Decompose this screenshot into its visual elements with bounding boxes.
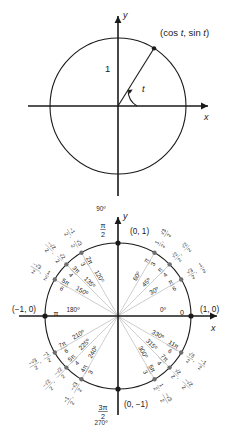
svg-text:2: 2 [54,258,60,264]
svg-text:2: 2 [181,384,187,390]
circle-point-120 [79,251,83,255]
radian-label-180: π [54,309,59,318]
circle-point-60 [152,251,156,255]
svg-text:2: 2 [201,267,207,274]
svg-text:3: 3 [149,260,157,267]
svg-text:6: 6 [63,346,70,354]
radian-label-120: 2π3 [78,255,95,270]
circle-point-315 [167,365,171,369]
svg-text:2: 2 [33,364,39,371]
svg-text:3π: 3π [99,403,108,412]
svg-text:2: 2 [60,373,66,379]
circle-point-270 [115,386,120,391]
degree-label-180: 180º [67,306,81,313]
svg-text:6: 6 [59,284,66,292]
svg-text:2: 2 [63,231,70,237]
circle-point-30 [179,277,183,281]
radian-label-240: 4π3 [78,363,95,378]
coordinate-label-210: −√32,−12 [26,350,54,373]
svg-text:4: 4 [67,271,75,279]
svg-text:3: 3 [86,368,94,375]
circle-point-0 [188,313,193,318]
svg-text:2: 2 [69,400,76,406]
x-axis-label: x [203,112,209,122]
degree-label-30: 30º [148,285,160,296]
svg-text:0: 0 [180,308,184,317]
x-axis-arrow [201,103,208,110]
point-label: (cos t, sin t) [160,27,209,38]
coordinate-label-120: −12,√32 [62,226,84,251]
svg-text:2: 2 [197,364,203,371]
svg-text:2: 2 [46,357,52,364]
svg-text:45º: 45º [140,276,152,288]
x-axis-label: x [210,323,216,333]
unit-circle-definition-panel: yx1t(cos t, sin t) [0,0,230,200]
circle-point-330 [179,350,183,354]
coordinate-label-45: √22,√22 [170,240,194,264]
degree-label-60: 60º [131,270,142,282]
axis-coordinate-bottom: (0, −1) [124,400,148,409]
svg-text:,: , [193,268,198,274]
y-axis-arrow [115,217,122,224]
svg-text:2: 2 [166,232,173,238]
circle-point-300 [152,377,156,381]
svg-text:3: 3 [142,369,150,376]
degree-label-90: 90º [96,205,106,212]
svg-text:6: 6 [167,347,174,355]
radius-line [118,48,154,106]
coordinate-label-240: −12,−√32 [62,380,85,408]
radian-label-90: π2 [100,221,106,239]
svg-text:π: π [101,221,106,230]
radian-label-60: π3 [142,256,157,268]
svg-text:,: , [69,234,75,239]
degree-label-45: 45º [140,276,152,288]
coordinate-label-330: √32,−12 [183,350,208,372]
degree-label-0: 0º [160,306,167,313]
circle-point-150 [53,277,57,281]
svg-text:2: 2 [176,257,182,263]
radian-label-30: π6 [166,277,178,292]
terminal-point [152,46,156,50]
y-axis-arrow [115,16,122,23]
y-axis-label: y [122,10,128,20]
svg-text:60º: 60º [131,270,142,282]
svg-text:,: , [37,358,42,364]
axis-coordinate-top: (0, 1) [130,227,149,236]
circle-point-45 [167,262,171,266]
svg-text:3: 3 [80,261,88,268]
coordinate-label-225: −√22,−√22 [40,366,68,394]
svg-text:2: 2 [185,357,191,364]
svg-text:30º: 30º [148,285,160,296]
circle-point-225 [64,365,68,369]
svg-text:2: 2 [48,385,54,391]
circle-point-210 [53,350,57,354]
svg-text:2: 2 [101,412,105,421]
svg-text:2: 2 [70,243,77,249]
svg-text:2: 2 [43,275,49,282]
circle-point-135 [64,262,68,266]
svg-text:π: π [54,309,59,318]
coordinate-label-150: −√32,12 [27,260,52,282]
radian-label-210: 7π6 [57,339,72,356]
svg-text:4: 4 [161,271,169,279]
unit-circle-chart-panel: 0º030ºπ6√32,1245ºπ4√22,√2260ºπ312,√3290º… [0,200,230,434]
svg-text:6: 6 [171,284,178,292]
radian-label-0: 0 [180,308,184,317]
svg-text:2: 2 [31,268,37,275]
circle-point-90 [115,240,120,245]
svg-text:4: 4 [73,359,81,367]
radian-label-270: 3π2 [98,403,108,421]
axis-coordinate-right: (1, 0) [200,305,219,314]
coordinate-label-135: −√22,√22 [41,239,67,265]
coordinate-label-300: 12,−√32 [152,382,174,407]
radian-label-150: 5π6 [57,276,72,293]
svg-text:2: 2 [159,398,166,404]
coordinate-label-60: 12,√32 [153,227,173,249]
radius-label: 1 [105,63,110,74]
svg-text:2: 2 [101,230,105,239]
circle-point-180 [42,313,47,318]
radian-label-300: 5π3 [141,363,158,378]
coordinate-label-315: √22,−√22 [168,367,194,393]
svg-text:4: 4 [156,359,164,367]
axis-coordinate-left: (−1, 0) [12,305,36,314]
